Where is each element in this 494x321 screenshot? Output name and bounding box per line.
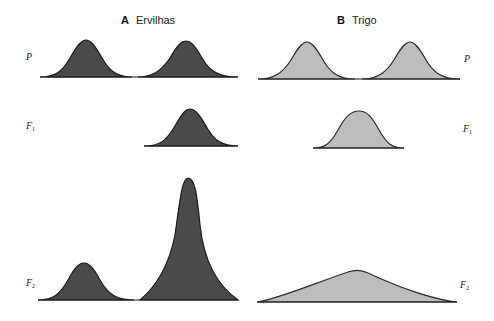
wheat-f2-distribution (257, 271, 457, 302)
label-f2-right-sub: 2 (466, 285, 469, 291)
wheat-p-distribution (258, 42, 460, 79)
label-f1-right-sub: 1 (469, 129, 472, 135)
peas-f1-distribution (144, 109, 238, 146)
label-f1-left-sub: 1 (32, 126, 35, 132)
label-f2-left-sub: 2 (32, 283, 35, 289)
label-p-left: P (25, 51, 32, 62)
inheritance-diagram: A Ervilhas B Trigo P F 1 F 2 P F 1 F 2 (0, 0, 494, 321)
peas-p-distribution (40, 40, 238, 77)
label-p-right: P (463, 53, 470, 64)
panel-a-letter: A (121, 14, 129, 26)
panel-b-letter: B (337, 14, 345, 26)
wheat-f1-distribution (313, 111, 404, 148)
panel-a-title: Ervilhas (136, 14, 176, 26)
peas-f2-distribution (38, 178, 238, 300)
panel-b-title: Trigo (352, 14, 377, 26)
